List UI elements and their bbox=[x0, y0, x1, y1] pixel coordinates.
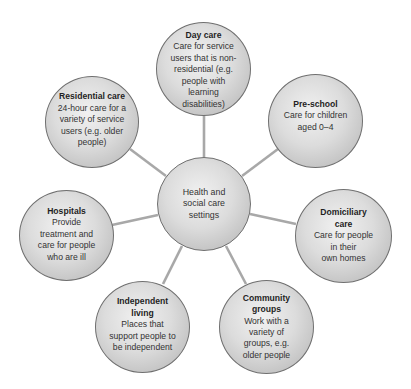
node-description-line: residential (e.g. bbox=[174, 64, 233, 75]
node-title: Residential care bbox=[59, 91, 125, 102]
connector-residential-care bbox=[130, 149, 166, 176]
node-description-line: learning bbox=[188, 87, 219, 98]
node-title: Hospitals bbox=[47, 206, 86, 217]
node-title: groups bbox=[252, 304, 281, 315]
node-description-line: Provide bbox=[52, 217, 81, 228]
node-description-line: Care for children bbox=[284, 110, 348, 121]
node-description-line: be independent bbox=[113, 342, 172, 353]
node-community-groups: Community groups Work with a variety of … bbox=[219, 280, 314, 374]
node-description-line: support people to bbox=[109, 331, 175, 342]
node-day-care: Day care Care for service users that is … bbox=[156, 22, 251, 116]
node-domiciliary-care: Domiciliary care Care for people in thei… bbox=[295, 189, 392, 283]
node-description-line: groups, e.g. bbox=[244, 338, 289, 349]
node-description-line: own homes bbox=[322, 253, 366, 264]
node-description-line: users that is non- bbox=[171, 53, 237, 64]
node-hospitals: Hospitals Provide treatment and care for… bbox=[19, 190, 114, 281]
node-description-line: people) bbox=[78, 137, 107, 148]
center-label-line-1: Health and bbox=[183, 187, 226, 199]
connector-pre-school bbox=[242, 149, 278, 176]
node-description-line: Work with a bbox=[244, 316, 289, 327]
node-description-line: variety of bbox=[249, 327, 284, 338]
node-title: Day care bbox=[186, 30, 222, 41]
node-description-line: users (e.g. older bbox=[61, 126, 123, 137]
node-title: Community bbox=[243, 293, 290, 304]
connector-hospitals bbox=[112, 215, 158, 225]
node-pre-school: Pre-school Care for children aged 0–4 bbox=[268, 74, 363, 168]
node-description-line: older people bbox=[243, 350, 290, 361]
center-node-health-and-social-care-settings: Health and social care settings bbox=[157, 157, 251, 251]
node-description-line: aged 0–4 bbox=[298, 122, 334, 133]
node-description-line: care for people bbox=[38, 240, 95, 251]
connector-independent-living bbox=[163, 246, 182, 284]
node-description-line: 24-hour care for a bbox=[58, 103, 126, 114]
node-title: Pre-school bbox=[293, 99, 337, 110]
node-independent-living: Independent living Places that support p… bbox=[95, 281, 190, 373]
node-title: care bbox=[335, 219, 353, 230]
center-label-line-2: social care bbox=[183, 198, 225, 210]
node-title: living bbox=[131, 308, 153, 319]
node-description-line: Places that bbox=[121, 319, 164, 330]
node-description-line: treatment and bbox=[40, 229, 93, 240]
node-residential-care: Residential care 24-hour care for a vari… bbox=[45, 76, 139, 168]
node-title: Domiciliary bbox=[320, 207, 366, 218]
node-description-line: people with bbox=[182, 76, 225, 87]
node-description-line: disabilities) bbox=[182, 99, 225, 110]
node-description-line: who are ill bbox=[47, 252, 86, 263]
node-title: Independent bbox=[117, 296, 168, 307]
center-label-line-3: settings bbox=[189, 210, 219, 222]
connector-community-groups bbox=[226, 246, 246, 284]
node-description-line: variety of service bbox=[60, 114, 124, 125]
connector-domiciliary-care bbox=[250, 214, 296, 224]
node-description-line: Care for service bbox=[173, 41, 234, 52]
node-description-line: Care for people bbox=[314, 230, 373, 241]
node-description-line: in their bbox=[331, 242, 357, 253]
